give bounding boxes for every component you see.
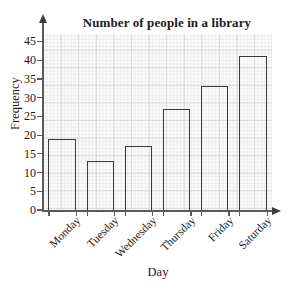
y-tick-mark (37, 172, 43, 173)
x-tick-mark (48, 211, 49, 216)
x-tick-mark (125, 211, 126, 216)
y-tick-mark (37, 135, 43, 136)
x-tick-mark (239, 211, 240, 216)
bar (239, 56, 266, 210)
bar (201, 86, 228, 210)
y-tick-mark (37, 78, 43, 79)
x-tick-mark (201, 211, 202, 216)
y-tick-label: 5 (0, 185, 36, 197)
y-axis-arrow-icon (39, 14, 47, 23)
y-tick-mark (37, 60, 43, 61)
y-tick-mark (37, 97, 43, 98)
x-tick-mark (163, 211, 164, 216)
bar (48, 139, 75, 210)
x-axis-arrow-icon (272, 207, 281, 215)
bar (87, 161, 114, 210)
bar-chart: Number of people in a library 0510152025… (0, 0, 291, 290)
y-tick-label: 15 (0, 148, 36, 160)
y-tick-label: 10 (0, 167, 36, 179)
y-axis-line (42, 22, 44, 212)
y-tick-mark (37, 41, 43, 42)
y-tick-mark (37, 209, 43, 210)
plot-area-grid (43, 34, 272, 210)
y-axis-title: Frequency (8, 59, 23, 149)
y-tick-label: 45 (0, 35, 36, 47)
x-axis-title: Day (43, 265, 273, 280)
chart-title: Number of people in a library (52, 15, 282, 31)
y-tick-mark (37, 116, 43, 117)
x-tick-mark (87, 211, 88, 216)
y-tick-mark (37, 153, 43, 154)
y-tick-label: 0 (0, 204, 36, 216)
bar (163, 109, 190, 210)
bar (125, 146, 152, 210)
y-tick-mark (37, 191, 43, 192)
x-tick-mark (152, 211, 153, 216)
